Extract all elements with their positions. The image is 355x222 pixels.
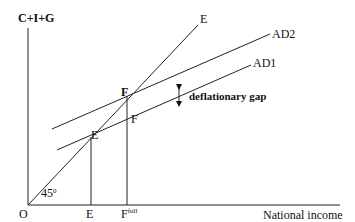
angle-label: 450: [41, 186, 57, 200]
point-e-label: E: [91, 128, 98, 142]
point-f-upper-label: F: [121, 85, 128, 99]
x-axis-label: National income: [263, 208, 343, 222]
x-tick-f-full: Ffull: [121, 207, 137, 221]
origin-label: O: [19, 207, 28, 221]
ad2-label: AD2: [272, 27, 295, 41]
line-45-label: E: [200, 12, 207, 26]
line-45-degree: [28, 25, 198, 205]
ad1-line: [57, 65, 251, 150]
deflationary-gap-diagram: C+I+G National income O 450 E AD2 AD1 F …: [0, 0, 355, 222]
gap-label: deflationary gap: [189, 90, 266, 102]
x-tick-e: E: [86, 207, 93, 221]
ad2-line: [52, 34, 270, 129]
y-axis-label: C+I+G: [18, 11, 54, 25]
point-f-lower-label: F: [131, 112, 138, 126]
ad1-label: AD1: [253, 56, 276, 70]
